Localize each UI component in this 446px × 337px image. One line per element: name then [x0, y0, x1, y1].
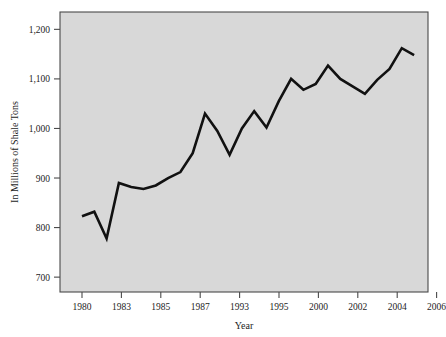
x-tick-label: 1983 — [112, 302, 131, 312]
x-tick-label: 1995 — [270, 302, 289, 312]
x-axis-title: Year — [235, 320, 254, 331]
x-tick-label: 2000 — [309, 302, 328, 312]
y-tick-label: 900 — [36, 174, 51, 184]
x-tick-label: 1985 — [151, 302, 170, 312]
y-tick-label: 1,100 — [29, 74, 51, 84]
x-tick-label: 2006 — [427, 302, 446, 312]
y-tick-label: 800 — [36, 223, 51, 233]
plot-area-background — [60, 12, 428, 292]
line-chart: 7008009001,0001,1001,200 198019831985198… — [0, 0, 446, 337]
x-tick-label: 1980 — [73, 302, 92, 312]
y-tick-label: 700 — [36, 273, 51, 283]
y-axis-title: In Millions of Shale Tons — [9, 101, 20, 203]
y-tick-label: 1,000 — [29, 124, 51, 134]
y-tick-label: 1,200 — [29, 25, 51, 35]
x-tick-label: 2002 — [348, 302, 367, 312]
x-tick-label: 1993 — [230, 302, 249, 312]
x-tick-label: 2004 — [388, 302, 407, 312]
chart-container: 7008009001,0001,1001,200 198019831985198… — [0, 0, 446, 337]
x-tick-label: 1987 — [191, 302, 210, 312]
